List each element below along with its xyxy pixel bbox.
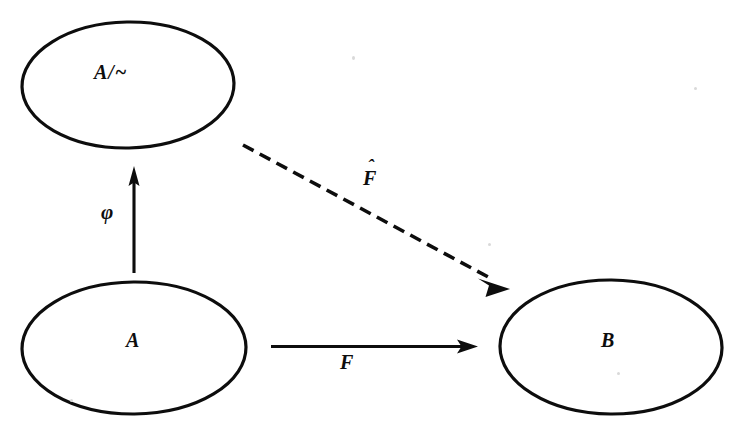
- label-quotient-set: A/~: [94, 62, 127, 82]
- label-target-set: B: [601, 330, 615, 350]
- diagram-canvas: A/~ A B φ F ˆF: [0, 0, 740, 422]
- scan-speck: [617, 372, 620, 375]
- label-fhat-arrow: ˆF: [363, 168, 376, 188]
- scan-speck: [694, 87, 697, 90]
- ellipse-quotient-set: [21, 20, 235, 150]
- label-source-set: A: [126, 330, 140, 350]
- scan-speck: [70, 399, 73, 402]
- scan-speck: [352, 56, 355, 60]
- label-phi-arrow: φ: [101, 202, 113, 223]
- fhat-glyph: ˆF: [363, 168, 376, 188]
- label-f-arrow: F: [340, 352, 353, 372]
- fhat-arrow-head: [478, 279, 510, 298]
- scan-speck: [488, 243, 491, 246]
